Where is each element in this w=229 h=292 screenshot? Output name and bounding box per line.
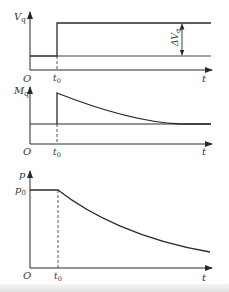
t0-label: t0: [53, 147, 61, 159]
step-signal: [30, 23, 211, 56]
response-diagram: ΔVq Vq O t0 t Mq O t0 t p p0 O t0 t: [0, 0, 229, 292]
page-edge-band: [0, 284, 229, 292]
x-axis-label: t: [202, 73, 207, 84]
y-axis-label: Vq: [14, 11, 26, 24]
delta-label: ΔVq: [170, 29, 182, 47]
origin-label: O: [23, 146, 31, 157]
p0-label: p0: [15, 184, 26, 197]
origin-label: O: [23, 270, 31, 281]
x-axis-label: t: [202, 272, 207, 283]
origin-label: O: [23, 73, 31, 84]
y-axis-label: p: [19, 169, 26, 180]
torque-response-curve: [57, 93, 211, 124]
x-axis-label: t: [202, 146, 207, 157]
y-axis-label: Mq: [13, 85, 29, 98]
panel-pressure: p p0 O t0 t: [15, 169, 212, 283]
pressure-curve: [30, 190, 210, 252]
panel-torque: Mq O t0 t: [13, 85, 212, 159]
t0-label: t0: [53, 73, 61, 85]
t0-label: t0: [54, 271, 62, 283]
panel-valve-opening: ΔVq Vq O t0 t: [14, 11, 212, 85]
